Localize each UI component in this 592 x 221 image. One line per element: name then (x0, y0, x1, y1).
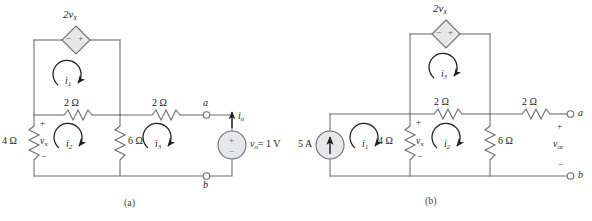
circuit-figure (0, 0, 592, 221)
resistor-a-2ohm-left-label: 2 Ω (64, 98, 79, 108)
mesh-current-b-i2-label: i2 (444, 139, 450, 150)
resistor-b-2ohm-right-label: 2 Ω (522, 97, 537, 107)
vx-b-plus: + (416, 118, 421, 127)
resistor-b-2ohm-left-label: 2 Ω (434, 97, 449, 107)
voc-label: voc (553, 139, 564, 150)
voltage-source-a-plus: + (229, 136, 234, 145)
resistor-a-6ohm (115, 126, 125, 160)
resistor-a-2ohm-right-label: 2 Ω (152, 98, 167, 108)
resistor-a-6ohm-label: 6 Ω (128, 136, 143, 146)
resistor-b-6ohm-label: 6 Ω (498, 136, 513, 146)
terminal-a-node (203, 112, 210, 119)
current-source-b-label: 5 A (298, 139, 312, 149)
resistor-b-4ohm (405, 126, 415, 160)
resistor-b-6ohm (485, 126, 495, 160)
dep-source-a-minus: − (66, 34, 71, 43)
mesh-current-a-i3-label: i3 (155, 139, 161, 150)
terminal-b-label-b: b (578, 170, 583, 180)
mesh-current-b-i3-label: i3 (441, 69, 447, 80)
dep-source-b-minus: − (436, 28, 441, 37)
resistor-b-2ohm-right (522, 109, 550, 119)
resistor-b-2ohm-left (434, 109, 462, 119)
voltage-source-a-minus: − (229, 147, 234, 156)
resistor-a-4ohm (29, 126, 39, 160)
terminal-b-node-b (567, 173, 574, 180)
current-io-label: io (238, 111, 244, 122)
mesh-current-a-i1-label: i1 (65, 76, 71, 87)
dep-source-a-label: 2vx (63, 9, 77, 21)
dep-source-b-plus: + (448, 28, 453, 37)
vx-b-label: vx (416, 136, 423, 147)
vx-a-plus: + (40, 119, 45, 128)
wire-a-src-bot (210, 159, 232, 176)
terminal-a-label: a (203, 98, 208, 108)
dep-source-a-plus: + (78, 34, 83, 43)
vx-a-minus: − (41, 152, 46, 161)
voc-plus: + (557, 122, 562, 131)
voc-minus: − (558, 160, 563, 169)
resistor-a-4ohm-label: 4 Ω (2, 136, 17, 146)
terminal-b-label: b (203, 180, 208, 190)
vx-a-label: vx (40, 136, 47, 147)
terminal-a-node-b (567, 111, 574, 118)
wire-a-src-top (210, 115, 232, 131)
resistor-b-4ohm-label: 4 Ω (378, 136, 393, 146)
mesh-current-b-i1-label: i1 (362, 139, 368, 150)
caption-b: (b) (425, 196, 437, 206)
current-source-b (316, 131, 344, 159)
voltage-source-a-label: vo= 1 V (250, 139, 281, 150)
resistor-a-2ohm-left (64, 110, 92, 120)
mesh-current-a-i2-label: i2 (66, 139, 72, 150)
terminal-a-label-b: a (578, 108, 583, 118)
resistor-a-2ohm-right (152, 110, 180, 120)
dep-source-b-label: 2vx (433, 3, 447, 15)
caption-a: (a) (124, 198, 135, 208)
vx-b-minus: − (417, 152, 422, 161)
